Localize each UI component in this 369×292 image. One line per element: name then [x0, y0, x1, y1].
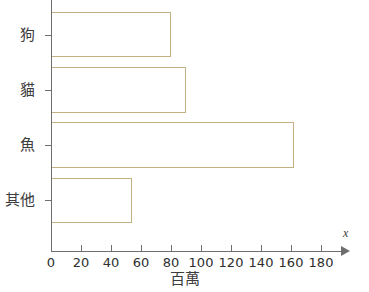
bar-chart: x 狗 貓 魚 其他 0 20 40 60 80 100 120 140 160…: [0, 0, 369, 292]
x-tick-label-20: 20: [73, 256, 90, 269]
x-axis-variable-label: x: [343, 226, 348, 241]
y-tick-cat: [45, 90, 52, 91]
x-tick-0: [51, 245, 52, 252]
bar-fish: [51, 122, 294, 168]
bar-cat: [51, 67, 186, 113]
x-tick-20: [81, 245, 82, 252]
x-tick-label-100: 100: [189, 256, 214, 269]
x-tick-140: [261, 245, 262, 252]
x-tick-label-60: 60: [133, 256, 150, 269]
x-tick-label-180: 180: [309, 256, 334, 269]
x-tick-180: [321, 245, 322, 252]
x-tick-100: [201, 245, 202, 252]
y-tick-dog: [45, 35, 52, 36]
x-tick-40: [111, 245, 112, 252]
x-tick-label-140: 140: [249, 256, 274, 269]
x-axis-line: [51, 251, 343, 252]
x-axis-arrow-icon: [341, 246, 350, 256]
y-axis-line: [51, 0, 52, 252]
x-tick-80: [171, 245, 172, 252]
x-tick-label-160: 160: [279, 256, 304, 269]
x-tick-label-0: 0: [47, 256, 55, 269]
y-tick-fish: [45, 145, 52, 146]
y-tick-other: [45, 200, 52, 201]
bar-dog: [51, 12, 171, 57]
x-tick-160: [291, 245, 292, 252]
x-tick-label-80: 80: [163, 256, 180, 269]
x-tick-label-40: 40: [103, 256, 120, 269]
x-axis-title: 百萬: [0, 272, 369, 287]
bar-other: [51, 178, 132, 223]
x-tick-120: [231, 245, 232, 252]
x-tick-60: [141, 245, 142, 252]
x-tick-label-120: 120: [219, 256, 244, 269]
